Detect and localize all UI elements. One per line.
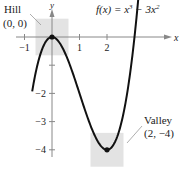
y-axis-arrow-icon [50,9,55,17]
title-lhs: f(x) = x [96,3,129,16]
valley-leader-line [127,126,142,143]
x-axis-arrow-icon [164,35,172,40]
function-title: f(x) = x3 − 3x2 [96,3,160,16]
y-axis-label: y [49,0,54,10]
y-tick-label: −2 [35,88,46,99]
y-tick-label: −3 [35,116,46,127]
x-tick-label: 1 [77,42,82,53]
hill-label: Hill [4,3,21,15]
title-mid: − 3x [133,3,156,15]
x-axis-label: x [173,32,179,43]
valley-point [104,147,109,152]
title-exp2: 2 [156,3,160,11]
hill-point [49,34,54,39]
hill-coords: (0, 0) [3,17,27,30]
valley-label: Valley [144,114,173,126]
x-tick-label: −1 [19,42,30,53]
y-tick-label: −4 [35,144,46,155]
x-tick-label: 2 [105,42,110,53]
valley-coords: (2, −4) [144,127,174,140]
chart: x y −112−2−3−4 f(x) = x3 − 3x2 Hill (0, … [0,0,182,176]
